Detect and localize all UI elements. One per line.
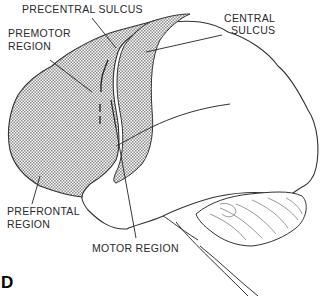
label-motor-region: MOTOR REGION (92, 242, 179, 254)
label-prefrontal-1: PREFRONTAL (7, 205, 80, 217)
label-premotor-2: REGION (8, 40, 51, 52)
label-prefrontal-2: REGION (7, 218, 50, 230)
panel-letter: D (1, 273, 13, 293)
label-premotor-1: PREMOTOR (8, 27, 71, 39)
label-central-sulcus-1: CENTRAL (224, 12, 275, 24)
pons-underside (163, 216, 198, 240)
brain-diagram: PRECENTRAL SULCUS CENTRAL SULCUS PREMOTO… (0, 0, 334, 296)
label-precentral-sulcus: PRECENTRAL SULCUS (22, 3, 143, 15)
label-central-sulcus-2: SULCUS (231, 24, 275, 36)
